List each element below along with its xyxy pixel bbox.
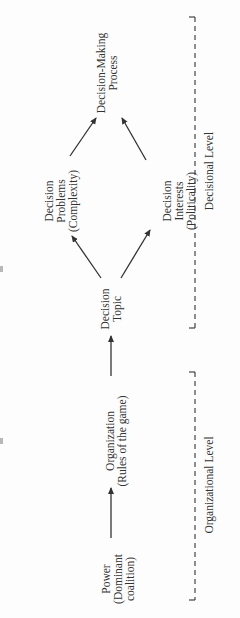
node-power: Power (Dominant coalition) <box>100 544 138 614</box>
decision-model-diagram: Decision-Making Process Decision Problem… <box>0 0 240 618</box>
node-decision-interests: Decision Interests (Politicality) <box>161 161 199 241</box>
node-decision-problems: Decision Problems (Complexity) <box>43 161 81 241</box>
organizational-level-label: Organizational Level <box>203 425 217 545</box>
node-decision-making-process: Decision-Making Process <box>95 23 121 123</box>
node-decision-topic: Decision Topic <box>99 279 125 339</box>
organizational-level-bracket <box>189 372 195 600</box>
decisional-level-label: Decisional Level <box>203 121 217 221</box>
arrow-interests-to-process <box>122 118 146 160</box>
arrow-topic-to-interests <box>121 230 150 278</box>
arrow-topic-to-problems <box>72 236 101 278</box>
arrow-problems-to-process <box>70 118 96 156</box>
node-organization: Organization (Rules of the game) <box>104 386 130 496</box>
